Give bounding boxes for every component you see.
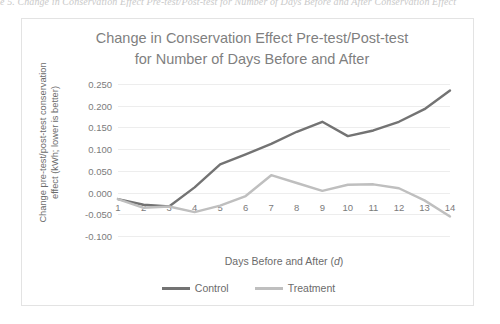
chart-title-line-2: for Number of Days Before and After [62, 49, 442, 70]
y-axis-title: Change pre-test/post-test conservation e… [38, 43, 61, 243]
gridline [118, 236, 450, 237]
plot-area: 0.2500.2000.1500.1000.0500.000-0.050-0.1… [118, 84, 450, 236]
y-axis-tick-label: 0.200 [88, 100, 112, 111]
legend-label-treatment: Treatment [288, 282, 335, 294]
y-axis-tick-label: -0.100 [85, 231, 112, 242]
y-axis-tick-label: 0.250 [88, 79, 112, 90]
y-axis-tick-label: 0.000 [88, 187, 112, 198]
y-axis-title-line-2: effect (kWh; lower is better) [49, 43, 61, 243]
y-axis-tick-label: 0.100 [88, 144, 112, 155]
y-axis-tick-label: 0.150 [88, 122, 112, 133]
x-axis-title-symbol: (d) [330, 255, 343, 267]
x-axis-title-text: Days Before and After [225, 255, 328, 267]
legend-swatch-treatment [255, 287, 283, 290]
legend-label-control: Control [195, 282, 229, 294]
legend-item-control[interactable]: Control [162, 282, 229, 294]
page-caption: e 5. Change in Conservation Effect Pre-t… [0, 0, 500, 8]
series-lines [118, 84, 450, 236]
chart-title: Change in Conservation Effect Pre-test/P… [62, 28, 442, 70]
chart-title-line-1: Change in Conservation Effect Pre-test/P… [62, 28, 442, 49]
x-axis-title: Days Before and After (d) [118, 255, 450, 267]
legend-swatch-control [162, 287, 190, 290]
y-axis-tick-label: 0.050 [88, 165, 112, 176]
legend-item-treatment[interactable]: Treatment [255, 282, 335, 294]
y-axis-tick-label: -0.050 [85, 209, 112, 220]
series-line-treatment [118, 175, 450, 216]
y-axis-title-line-1: Change pre-test/post-test conservation [38, 43, 50, 243]
chart-frame: Change in Conservation Effect Pre-test/P… [21, 18, 474, 306]
chart-legend: ControlTreatment [22, 282, 475, 294]
